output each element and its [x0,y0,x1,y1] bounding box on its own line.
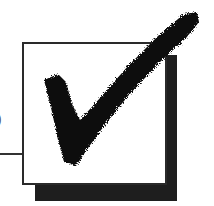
checkmark-icon [0,0,214,206]
